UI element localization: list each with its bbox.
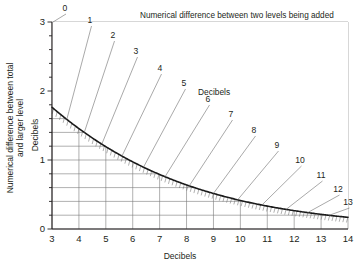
x-tick-label: 10: [235, 233, 246, 244]
chart-title: Numerical difference between two levels …: [140, 11, 334, 20]
callout-label: 7: [229, 109, 234, 119]
y-tick-label: 1: [40, 154, 45, 165]
callout-label: 8: [252, 125, 257, 135]
callout-label: 5: [182, 78, 187, 88]
callout-label: 12: [333, 184, 343, 194]
callout-label: 2: [111, 30, 116, 40]
callout-label: 3: [134, 46, 139, 56]
inner-decibels-label: Decibels: [198, 87, 230, 97]
x-tick-label: 6: [130, 233, 135, 244]
y-axis-inner-label: Decibels: [30, 119, 40, 152]
x-tick-label: 11: [262, 233, 272, 244]
x-tick-label: 8: [184, 233, 189, 244]
x-tick-label: 3: [49, 233, 54, 244]
x-tick-label: 5: [103, 233, 108, 244]
chart-svg: 345678910111213140123 012345678910111213…: [0, 0, 361, 265]
y-axis-title-line1: Numerical difference between total: [5, 63, 15, 194]
y-tick-label: 3: [40, 16, 45, 27]
x-tick-label: 14: [343, 233, 354, 244]
callout-label: 4: [158, 63, 163, 73]
x-tick-label: 12: [289, 233, 300, 244]
callout-label: 0: [63, 3, 68, 13]
callout-label: 1: [88, 15, 93, 25]
y-axis-title-line2: and larger level: [15, 99, 25, 157]
x-tick-label: 7: [157, 233, 162, 244]
x-tick-label: 9: [211, 233, 216, 244]
x-tick-label: 13: [316, 233, 327, 244]
decibel-addition-chart: 345678910111213140123 012345678910111213…: [0, 0, 361, 265]
y-tick-label: 0: [40, 223, 45, 234]
x-tick-label: 4: [76, 233, 81, 244]
y-tick-label: 2: [40, 85, 45, 96]
callout-label: 9: [275, 140, 280, 150]
callout-label: 13: [343, 197, 353, 207]
x-axis-title: Decibels: [164, 251, 197, 261]
callout-label: 10: [295, 155, 305, 165]
callout-label: 11: [317, 170, 326, 180]
